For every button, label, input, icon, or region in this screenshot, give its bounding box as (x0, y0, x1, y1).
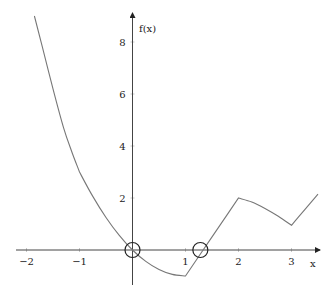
series-line-f (34, 16, 318, 276)
y-axis-label: f(x) (139, 23, 156, 34)
y-tick-label: 2 (119, 193, 125, 204)
y-tick-label: 4 (119, 141, 125, 152)
y-tick-label: 6 (119, 89, 125, 100)
x-tick-label: 1 (182, 256, 188, 267)
function-plot: −2−11232468 x f(x) (0, 0, 332, 292)
y-tick-label: 8 (119, 37, 125, 48)
x-tick-label: 2 (235, 256, 241, 267)
x-axis-label: x (310, 258, 316, 269)
x-tick-label: −1 (72, 256, 87, 267)
x-tick-label: 3 (288, 256, 294, 267)
x-tick-label: −2 (19, 256, 34, 267)
